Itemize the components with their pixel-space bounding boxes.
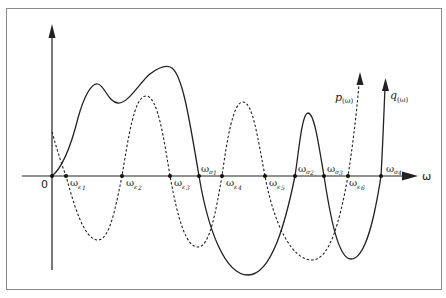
q-curve-label: q (ω) (390, 89, 408, 104)
sigma-2-label: ω σ 2 (298, 163, 314, 176)
svg-text:ω: ω (174, 177, 182, 188)
q-arrow-icon (382, 78, 389, 91)
sigma-1-label: ω σ 1 (201, 163, 217, 176)
svg-text:ω: ω (201, 163, 209, 174)
y-axis-arrow-icon (49, 24, 56, 38)
sigma-4-label: ω σ 4 (386, 163, 402, 176)
sigma-4-point (379, 174, 383, 178)
interlacing-diagram: ω 0 p (ω) q (ω) ω ε 1 ω (0, 0, 446, 298)
svg-text:ω: ω (126, 177, 134, 188)
svg-text:ε: ε (357, 183, 360, 190)
svg-text:4: 4 (237, 184, 242, 191)
epsilon-3-point (168, 174, 172, 178)
figure-frame (7, 9, 442, 290)
svg-text:ε: ε (277, 183, 280, 190)
svg-text:1: 1 (213, 169, 217, 176)
epsilon-1-label: ω ε 1 (70, 177, 86, 191)
sigma-2-point (293, 174, 297, 178)
epsilon-4-point (220, 174, 224, 178)
svg-text:3: 3 (186, 184, 190, 191)
sigma-3-point (322, 174, 326, 178)
svg-text:ω: ω (269, 177, 277, 188)
svg-text:ω: ω (70, 177, 78, 188)
sigma-1-point (197, 174, 201, 178)
epsilon-3-label: ω ε 3 (174, 177, 190, 191)
svg-text:ω: ω (298, 163, 306, 174)
svg-text:ε: ε (134, 183, 137, 190)
svg-text:ω: ω (386, 163, 394, 174)
origin-label: 0 (41, 178, 48, 191)
x-axis-label: ω (422, 170, 431, 183)
p-arrow-icon (357, 72, 364, 85)
epsilon-1-point (64, 174, 68, 178)
epsilon-2-label: ω ε 2 (126, 177, 142, 191)
epsilon-5-point (263, 174, 267, 178)
svg-text:6: 6 (361, 184, 365, 191)
svg-text:2: 2 (309, 169, 314, 176)
svg-text:4: 4 (397, 169, 402, 176)
svg-text:(ω): (ω) (342, 97, 353, 105)
epsilon-4-label: ω ε 4 (226, 177, 242, 191)
svg-text:ε: ε (182, 183, 185, 190)
x-axis-arrow-icon (402, 172, 418, 181)
svg-text:1: 1 (82, 184, 86, 191)
y-axis (49, 24, 56, 270)
svg-text:ω: ω (226, 177, 234, 188)
svg-text:ε: ε (234, 183, 237, 190)
epsilon-labels: ω ε 1 ω ε 2 ω ε 3 ω ε 4 ω ε 5 ω ε 6 (70, 177, 365, 191)
svg-text:(ω): (ω) (397, 96, 408, 104)
svg-text:3: 3 (339, 169, 343, 176)
svg-text:ε: ε (78, 183, 81, 190)
epsilon-5-label: ω ε 5 (269, 177, 285, 191)
svg-text:5: 5 (281, 184, 285, 191)
sigma-labels: ω σ 1 ω σ 2 ω σ 3 ω σ 4 (201, 163, 402, 176)
svg-text:p: p (335, 91, 342, 104)
svg-text:ω: ω (349, 177, 357, 188)
svg-text:2: 2 (137, 184, 142, 191)
epsilon-2-point (120, 174, 124, 178)
svg-text:ω: ω (327, 163, 335, 174)
epsilon-6-label: ω ε 6 (349, 177, 365, 191)
p-curve-label: p (ω) (335, 91, 353, 105)
origin-point (50, 174, 54, 178)
sigma-3-label: ω σ 3 (327, 163, 343, 176)
svg-text:q: q (390, 89, 397, 102)
